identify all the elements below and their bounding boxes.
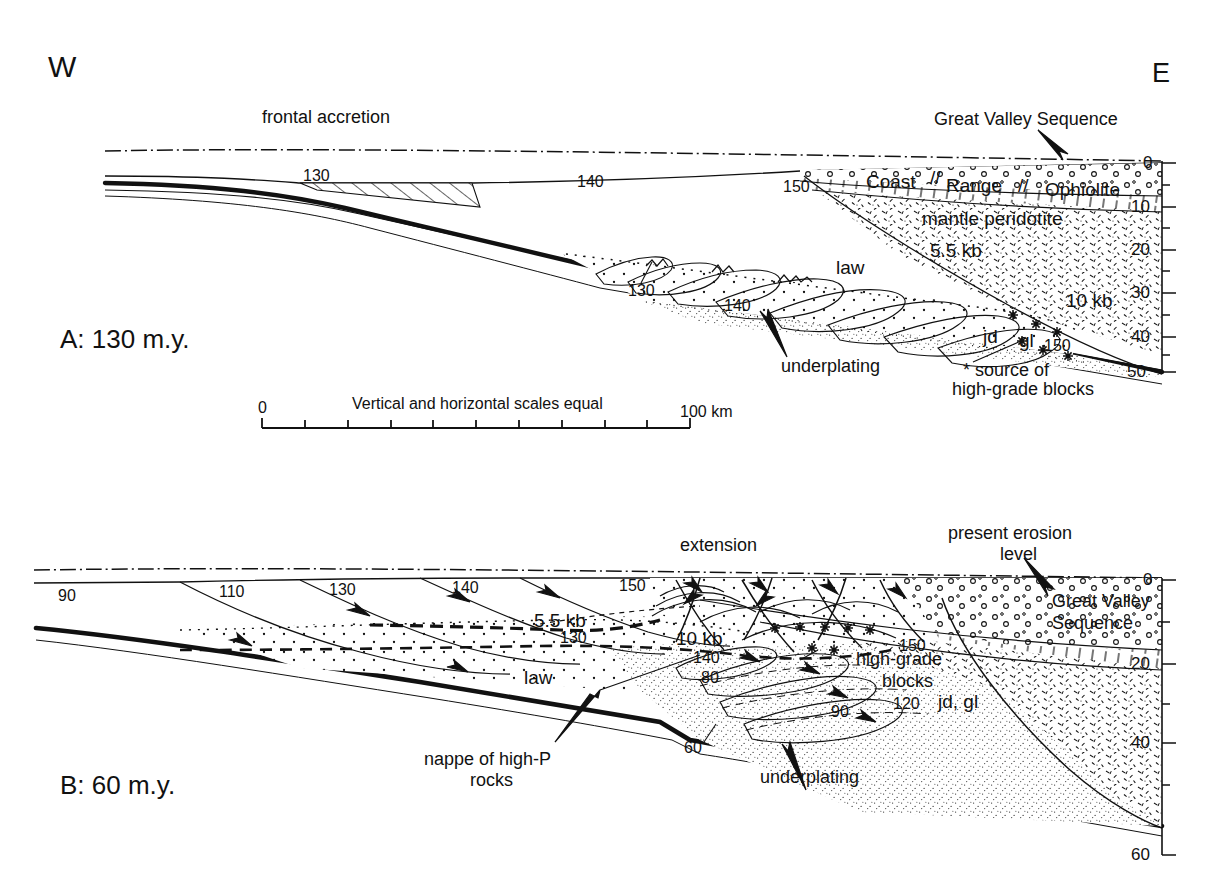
panel-b-jd-gl-label: jd, gl [938,692,978,711]
panel-b-isochron-150b: 150 [899,638,926,654]
panel-a-5p5kb-label: 5.5 kb [930,241,982,260]
panel-a-depth-40: 40 [1131,328,1150,345]
scale-bar-end-label: 100 km [680,404,732,420]
panel-a-gvs-leader [1038,130,1068,160]
panel-b-isochron-130a: 130 [329,582,356,598]
panel-a [105,130,1190,390]
panel-b-isochron-110: 110 [219,584,245,600]
panel-b-nappe-line1: nappe of high-P [424,750,551,768]
panel-a-mantle-peridotite-label: mantle peridotite [922,209,1062,228]
panel-a-ophiolite-label: Ophiolite [1045,180,1120,199]
panel-a-depth-10: 10 [1131,198,1150,215]
panel-a-source-line1: * source of [963,361,1049,379]
scale-bar-start-label: 0 [258,400,267,416]
panel-b-sealevel-line [34,569,1162,578]
panel-b-great-valley-line2: Sequence [1052,614,1133,632]
panel-b-depth-0: 0 [1143,571,1152,588]
panel-b-isochron-80: 80 [701,670,719,686]
panel-a-source-line2: high-grade blocks [952,380,1094,398]
panel-a-gl-label: gl [1019,331,1034,350]
panel-b-lawsonite-label: law [524,668,553,687]
panel-b-isochron-90a: 90 [58,588,76,604]
panel-a-range-label: Range [946,176,1002,195]
panel-a-isochron-140b: 140 [724,298,751,314]
panel-a-isochron-130a: 130 [303,168,330,184]
panel-a-great-valley-sequence-label: Great Valley Sequence [934,110,1118,128]
panel-a-coast-range-slash2: // [1018,176,1029,195]
panel-a-isochron-130b: 130 [628,283,655,299]
panel-b-isochron-140a: 140 [452,580,479,596]
panel-b-great-valley-line1: Great Valley [1052,592,1150,610]
cross-section-canvas [0,0,1218,876]
panel-a-coast-range-slash1: // [930,168,941,187]
panel-b-isochron-90b: 90 [831,704,849,720]
panel-b-depth-20: 20 [1131,655,1150,672]
panel-a-underplating-label: underplating [781,357,880,375]
panel-b-depth-ticks [1162,580,1176,855]
panel-a-depth-0: 0 [1143,154,1152,171]
panel-b-10kb-label: 10 kb [676,629,722,648]
panel-a-10kb-label: 10 kb [1066,291,1112,310]
panel-a-isochron-150a: 150 [783,179,810,195]
panel-b-isochron-140b: 140 [693,650,720,666]
geologic-cross-section-figure: W E frontal accretion Great Valley Seque… [0,0,1218,876]
panel-b-depth-60: 60 [1131,846,1150,863]
panel-b-isochron-150a: 150 [619,578,646,594]
scale-bar-ticks [262,418,690,428]
panel-b-erosion-line2: level [1000,545,1037,563]
panel-b-title: B: 60 m.y. [60,772,175,798]
compass-west-label: W [48,52,76,82]
panel-b-high-grade-line2: blocks [882,672,933,690]
panel-b-erosion-line1: present erosion [948,524,1072,542]
panel-b [34,558,1180,855]
panel-a-jd-label: jd [983,327,998,346]
panel-b-depth-40: 40 [1131,734,1150,751]
scale-bar-caption: Vertical and horizontal scales equal [352,396,603,412]
panel-b-5p5kb-label: 5.5 kb [534,611,586,630]
panel-a-isochron-140a: 140 [577,174,604,190]
panel-a-coast-label: Coast [866,172,916,191]
panel-a-depth-20: 20 [1131,241,1150,258]
panel-b-isochron-60: 60 [684,740,702,756]
panel-a-depth-30: 30 [1131,284,1150,301]
panel-b-underplating-label: underplating [760,768,859,786]
scale-bar [262,418,690,428]
compass-east-label: E [1152,60,1170,87]
panel-a-depth-ticks [1162,163,1176,372]
panel-b-nappe-line2: rocks [470,771,513,789]
panel-a-depth-50: 50 [1127,363,1146,380]
panel-a-lawsonite-label: law [836,258,865,277]
panel-a-sealevel-line [105,150,1162,161]
panel-a-isochron-150b: 150 [1044,338,1071,354]
panel-a-title: A: 130 m.y. [60,326,190,352]
panel-b-extension-label: extension [680,536,757,554]
panel-a-frontal-accretion-label: frontal accretion [262,108,390,126]
panel-b-isochron-120: 120 [893,696,920,712]
panel-b-isochron-130b: 130 [560,630,587,646]
